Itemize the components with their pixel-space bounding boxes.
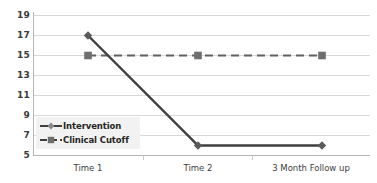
legend-item-clinical-cutoff: Clinical Cutoff [40,133,138,147]
line-chart: 19 17 15 13 11 9 7 5 Time 1 Time 2 3 Mon… [0,0,377,183]
legend-label-intervention: Intervention [63,121,121,131]
legend-key-intervention-icon [40,120,62,132]
x-axis-tick-label: Time 1 [74,163,103,174]
x-axis-tick-label: 3 Month Follow up [272,163,350,174]
legend-item-intervention: Intervention [40,119,138,133]
legend-key-clinical-cutoff-icon [40,134,62,146]
legend-label-clinical-cutoff: Clinical Cutoff [63,135,129,145]
x-axis-tick-label: Time 2 [184,163,213,174]
x-axis-labels: Time 1 Time 2 3 Month Follow up [0,0,377,183]
chart-legend: Intervention Clinical Cutoff [36,117,140,149]
